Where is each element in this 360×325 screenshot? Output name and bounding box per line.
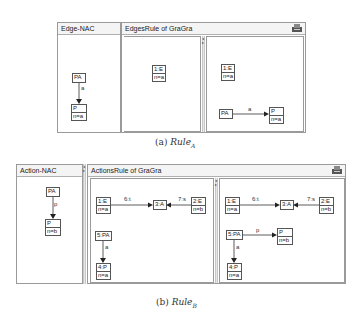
node-5pa[interactable]: 5:PA (226, 230, 243, 240)
node-1e[interactable]: 1:E n=a (152, 65, 166, 82)
node-p[interactable]: P n=b (45, 219, 61, 236)
node-p[interactable]: P n=a (71, 104, 87, 121)
node-2e[interactable]: 2:E n=b (319, 197, 334, 214)
edge-label-a: a (248, 106, 251, 112)
node-pa[interactable]: PA (219, 109, 233, 119)
edge-label-a: a (105, 244, 108, 250)
node-pa[interactable]: PA (46, 187, 60, 197)
rhs-pane[interactable]: 1:E n=a PA a P n=a (206, 36, 304, 132)
printer-icon[interactable] (292, 24, 302, 32)
rhs-pane[interactable]: 1:E n=a 6:t 3:A 7:s 2:E n=b 5:PA p P n=b… (219, 178, 345, 283)
edge-nac-edges (58, 23, 122, 134)
node-p[interactable]: P n=b (277, 228, 293, 245)
pane-splitter[interactable]: ◂ ▸ (215, 178, 218, 283)
nac-splitter[interactable]: ◂ ▸ (83, 164, 86, 284)
edge-label-a: a (81, 85, 84, 91)
pane-splitter[interactable]: ◂ ▸ (202, 36, 205, 132)
node-p[interactable]: P n=a (269, 107, 284, 124)
actions-rule-title: ActionsRule of GraGra (88, 165, 345, 177)
edges-rule-title: EdgesRule of GraGra (122, 23, 305, 35)
caption-a: (a) RuleA (155, 137, 195, 149)
edge-nac-panel[interactable]: Edge-NAC PA a P n=a (57, 22, 121, 133)
edge-label-6t: 6:t (252, 196, 259, 202)
node-1e[interactable]: 1:E n=a (221, 64, 235, 81)
edge-label-7s: 7:s (178, 196, 186, 202)
actions-rule-panel[interactable]: ActionsRule of GraGra 1:E n=a 6:t (87, 164, 346, 284)
edge-label-6t: 6:t (124, 196, 131, 202)
edge-label-a: a (236, 244, 239, 250)
edges-rule-panel[interactable]: EdgesRule of GraGra 1:E n=a ◂ ▸ 1:E (121, 22, 306, 133)
caption-b: (b) RuleB (156, 297, 197, 309)
edge-label-p: p (54, 201, 57, 207)
node-1e[interactable]: 1:E n=a (225, 197, 240, 214)
printer-icon[interactable] (332, 166, 342, 174)
lhs-pane[interactable]: 1:E n=a (124, 36, 201, 132)
edge-label-p: p (256, 227, 259, 233)
node-5pa[interactable]: 5:PA (95, 231, 112, 241)
node-3a[interactable]: 3:A (153, 200, 167, 210)
node-2e[interactable]: 2:E n=b (191, 197, 206, 214)
edge-label-7s: 7:s (307, 196, 315, 202)
node-4p[interactable]: 4:P n=a (96, 263, 111, 280)
action-nac-panel[interactable]: Action-NAC PA p P n=b (16, 164, 83, 284)
node-1e[interactable]: 1:E n=a (96, 197, 111, 214)
lhs-pane[interactable]: 1:E n=a 6:t 3:A 7:s 2:E n=b 5:PA a 4:P n… (90, 178, 214, 283)
node-pa[interactable]: PA (72, 73, 86, 83)
node-3a[interactable]: 3:A (280, 200, 294, 210)
node-4p[interactable]: 4:P n=a (227, 263, 242, 280)
